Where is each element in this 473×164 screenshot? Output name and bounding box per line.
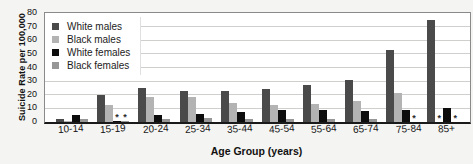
legend-label: Black males: [67, 34, 121, 45]
bar-white-females-25-34: [196, 114, 204, 122]
bar-black-males-20-24: [146, 97, 154, 122]
bar-slot: *: [451, 13, 459, 122]
ytick-label-30: 30: [17, 75, 37, 85]
plot-area: ***** White malesBlack malesWhite female…: [44, 12, 471, 124]
ytick-label-0: 0: [17, 116, 37, 126]
bar-black-males-65-74: [353, 101, 361, 122]
bar-slot: [221, 13, 229, 122]
bar-group-65-74: [345, 13, 377, 122]
ytick-label-10: 10: [17, 102, 37, 112]
xtick-label-85+: 85+: [437, 122, 455, 134]
ytick-label-40: 40: [17, 62, 37, 72]
legend-swatch-icon: [52, 62, 59, 69]
xtick-label-20-24: 20-24: [142, 122, 168, 135]
bar-group-85+: **: [427, 13, 459, 122]
bar-slot: [237, 13, 245, 122]
bar-white-males-25-34: [180, 91, 188, 122]
xtick-label-65-74: 65-74: [353, 122, 379, 135]
bar-slot: [303, 13, 311, 122]
bar-white-males-15-19: [97, 95, 105, 122]
bar-slot: [229, 13, 237, 122]
bar-white-females-35-44: [237, 112, 245, 122]
ytick-label-20: 20: [17, 89, 37, 99]
bar-black-males-75-84: [394, 93, 402, 122]
bar-slot: *: [410, 13, 418, 122]
bar-group-55-64: [303, 13, 335, 122]
bar-white-females-45-54: [278, 110, 286, 122]
bar-slot: [327, 13, 335, 122]
bar-slot: [361, 13, 369, 122]
bar-white-females-55-64: [319, 110, 327, 122]
bar-slot: [369, 13, 377, 122]
bar-white-males-45-54: [262, 89, 270, 122]
y-axis-tick-labels: 01020304050607080: [18, 12, 40, 121]
bar-slot: [427, 13, 435, 122]
bar-white-males-35-44: [221, 91, 229, 122]
bar-black-males-45-54: [270, 105, 278, 122]
bar-white-males-85+: [427, 20, 435, 122]
ytick-label-60: 60: [17, 34, 37, 44]
bar-white-males-65-74: [345, 80, 353, 122]
legend-label: White males: [67, 21, 122, 32]
bar-group-35-44: [221, 13, 253, 122]
bar-group-25-34: [180, 13, 212, 122]
bar-white-males-55-64: [303, 85, 311, 122]
legend-label: Black females: [67, 60, 129, 71]
bar-slot: [286, 13, 294, 122]
legend-swatch-icon: [52, 23, 59, 30]
bar-black-males-15-19: [105, 105, 113, 122]
x-axis-title: Age Group (years): [44, 145, 469, 157]
bar-black-males-35-44: [229, 103, 237, 122]
bar-black-males-10-14: [64, 121, 72, 122]
ytick-label-70: 70: [17, 21, 37, 31]
bar-slot: [154, 13, 162, 122]
ytick-label-50: 50: [17, 48, 37, 58]
bar-group-20-24: [138, 13, 170, 122]
x-axis-tick-labels: 10-1415-1920-2425-3435-4445-5455-6465-74…: [44, 123, 469, 134]
legend: White malesBlack malesWhite femalesBlack…: [45, 17, 141, 75]
bar-slot: [278, 13, 286, 122]
bar-group-75-84: *: [386, 13, 418, 122]
bar-slot: [270, 13, 278, 122]
legend-swatch-icon: [52, 49, 59, 56]
bar-slot: [180, 13, 188, 122]
bar-slot: [196, 13, 204, 122]
bar-slot: [146, 13, 154, 122]
legend-label: White females: [67, 47, 130, 58]
bar-black-males-55-64: [311, 104, 319, 122]
bar-slot: [162, 13, 170, 122]
xtick-label-10-14: 10-14: [58, 122, 84, 135]
suppressed-marker: *: [412, 116, 416, 122]
legend-item-black-males: Black males: [52, 33, 130, 46]
bar-white-females-75-84: [402, 110, 410, 122]
bar-slot: [386, 13, 394, 122]
ytick-label-80: 80: [17, 7, 37, 17]
xtick-label-15-19: 15-19: [100, 122, 126, 135]
xtick-label-35-44: 35-44: [227, 122, 253, 135]
xtick-label-55-64: 55-64: [311, 122, 337, 135]
legend-item-black-females: Black females: [52, 59, 130, 72]
bar-slot: [188, 13, 196, 122]
bar-white-males-75-84: [386, 50, 394, 122]
bar-slot: [443, 13, 451, 122]
bar-slot: [345, 13, 353, 122]
bar-white-females-10-14: [72, 115, 80, 122]
xtick-label-25-34: 25-34: [184, 122, 210, 135]
bar-slot: [204, 13, 212, 122]
bar-slot: [394, 13, 402, 122]
xtick-label-45-54: 45-54: [269, 122, 295, 135]
bar-black-males-25-34: [188, 97, 196, 122]
legend-swatch-icon: [52, 36, 59, 43]
bar-slot: [311, 13, 319, 122]
bar-white-females-65-74: [361, 111, 369, 122]
bar-slot: [402, 13, 410, 122]
bar-slot: [319, 13, 327, 122]
suicide-rate-bar-chart: Suicide Rate per 100,000 010203040506070…: [0, 0, 473, 164]
bar-white-males-10-14: [56, 119, 64, 122]
suppressed-marker: *: [438, 116, 442, 122]
legend-item-white-females: White females: [52, 46, 130, 59]
bar-group-45-54: [262, 13, 294, 122]
suppressed-marker: *: [454, 116, 458, 122]
xtick-label-75-84: 75-84: [395, 122, 421, 135]
bar-slot: [353, 13, 361, 122]
